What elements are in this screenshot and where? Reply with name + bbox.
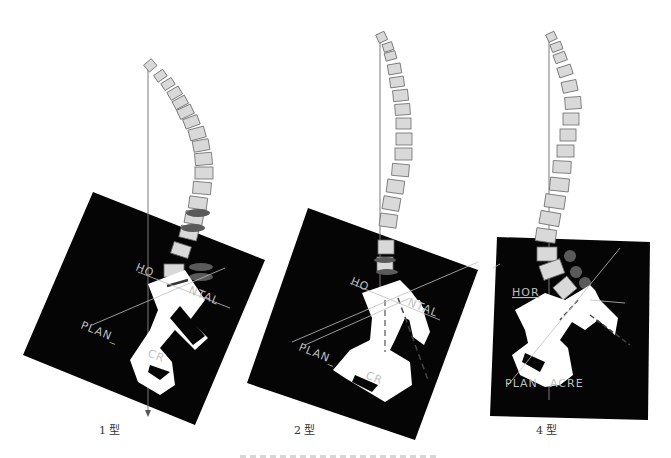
spine-sagittal-types-figure: HO NTAL PLAN_ CR <box>0 0 671 458</box>
panel-type-2: HO NTAL PLAN_ CR <box>247 31 478 440</box>
panel-label-type-4: 4 型 <box>536 421 558 437</box>
panel-label-type-1: 1 型 <box>99 421 121 437</box>
plan-sacre-label-start: PLAN <box>505 377 538 390</box>
horizontal-label: HOR <box>512 286 540 299</box>
figure-caption-cropped <box>240 452 440 458</box>
pelvis-background-square <box>490 237 650 420</box>
pelvis-background-square <box>23 192 265 425</box>
panel-type-1: HO NTAL PLAN_ CR <box>23 59 265 425</box>
plan-sacre-label-end: ACRE <box>550 377 584 390</box>
panel-label-type-2: 2 型 <box>294 421 316 437</box>
pelvis-background-square <box>247 208 478 440</box>
panel-type-4: HOR PLAN ACRE <box>490 31 650 420</box>
plumb-arrow-icon <box>145 410 151 417</box>
